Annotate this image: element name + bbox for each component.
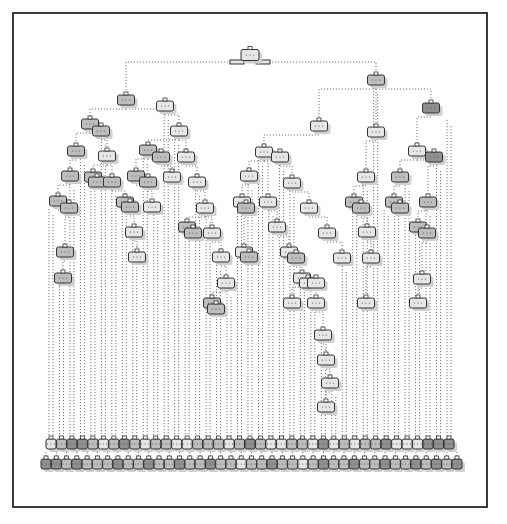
node-text-dot [379, 131, 380, 132]
node-connector-tab [455, 456, 459, 459]
tree-node[interactable] [359, 224, 379, 240]
tree-node[interactable] [99, 148, 119, 164]
tree-node[interactable] [311, 118, 331, 134]
tree-node[interactable] [322, 375, 342, 391]
node-text-dot [246, 443, 247, 444]
tree-node[interactable] [213, 249, 233, 265]
tree-node[interactable] [157, 98, 177, 114]
tree-node[interactable] [358, 295, 378, 311]
tree-node[interactable] [284, 175, 304, 191]
node-text-dot [390, 201, 391, 202]
tree-node[interactable] [62, 168, 82, 184]
node-text-dot [144, 149, 145, 150]
node-text-dot [285, 463, 286, 464]
tree-node[interactable] [318, 352, 338, 368]
node-text-dot [165, 463, 166, 464]
node-text-dot [138, 443, 139, 444]
node-connector-tab [374, 436, 378, 439]
node-text-dot [66, 277, 67, 278]
tree-node[interactable] [284, 295, 304, 311]
node-text-dot [330, 232, 331, 233]
tree-node[interactable] [164, 169, 184, 185]
node-text-dot [322, 406, 323, 407]
tree-node[interactable] [178, 149, 198, 165]
node-text-dot [206, 463, 207, 464]
node-text-dot [168, 105, 169, 106]
tree-node[interactable] [126, 224, 146, 240]
node-text-dot [238, 201, 239, 202]
node-connector-tab [363, 456, 367, 459]
tree-node[interactable] [204, 225, 224, 241]
node-text-dot [268, 463, 269, 464]
node-connector-tab [369, 250, 373, 253]
tree-node[interactable] [144, 199, 164, 215]
node-text-dot [424, 201, 425, 202]
node-text-dot [129, 206, 130, 207]
node-text-dot [312, 282, 313, 283]
node-text-dot [374, 463, 375, 464]
node-connector-tab [445, 456, 449, 459]
tree-node[interactable] [57, 244, 77, 260]
node-text-dot [446, 463, 447, 464]
tree-node[interactable] [68, 143, 88, 159]
tree-node[interactable] [104, 174, 124, 190]
tree-node[interactable] [301, 200, 321, 216]
tree-node[interactable] [392, 169, 412, 185]
node-text-dot [190, 443, 191, 444]
node-text-dot [388, 463, 389, 464]
node-text-dot [241, 463, 242, 464]
tree-node[interactable] [171, 123, 191, 139]
node-connector-tab [110, 174, 114, 177]
tree-node[interactable] [368, 124, 388, 140]
node-connector-tab [116, 456, 120, 459]
node-text-dot [434, 443, 435, 444]
node-text-dot [326, 382, 327, 383]
tree-node[interactable] [129, 249, 149, 265]
tree-node[interactable] [241, 168, 261, 184]
node-connector-tab [300, 270, 304, 273]
node-text-dot [381, 463, 382, 464]
node-text-dot [176, 443, 177, 444]
node-text-dot [62, 463, 63, 464]
tree-node[interactable] [315, 327, 335, 343]
node-text-dot [432, 463, 433, 464]
node-text-dot [134, 463, 135, 464]
tree-node[interactable] [334, 250, 354, 266]
node-text-dot [384, 463, 385, 464]
node-text-dot [225, 282, 226, 283]
node-text-dot [157, 156, 158, 157]
tree-node[interactable] [269, 219, 289, 235]
node-text-dot [164, 105, 165, 106]
node-text-dot [220, 463, 221, 464]
node-text-dot [137, 231, 138, 232]
node-text-dot [379, 79, 380, 80]
node-connector-tab [314, 275, 318, 278]
tree-node[interactable] [368, 72, 388, 88]
tree-node[interactable] [318, 399, 338, 415]
tree-node[interactable] [319, 225, 339, 241]
node-text-dot [347, 443, 348, 444]
node-text-dot [253, 443, 254, 444]
node-text-dot [93, 463, 94, 464]
tree-node[interactable] [420, 194, 440, 210]
node-connector-tab [262, 144, 266, 147]
tree-node[interactable] [189, 174, 209, 190]
tree-node[interactable] [55, 270, 75, 286]
node-text-dot [323, 232, 324, 233]
node-text-dot [350, 463, 351, 464]
tree-node[interactable] [423, 100, 443, 116]
node-text-dot [340, 443, 341, 444]
node-text-dot [66, 463, 67, 464]
node-text-dot [65, 207, 66, 208]
node-text-dot [100, 463, 101, 464]
tree-node[interactable] [358, 169, 378, 185]
root-node[interactable] [241, 47, 262, 64]
node-text-dot [421, 302, 422, 303]
node-text-dot [103, 155, 104, 156]
tree-node[interactable] [118, 92, 138, 108]
node-text-dot [245, 207, 246, 208]
node-connector-tab [147, 456, 151, 459]
node-text-dot [148, 463, 149, 464]
tree-node[interactable] [363, 250, 383, 266]
node-text-dot [217, 463, 218, 464]
